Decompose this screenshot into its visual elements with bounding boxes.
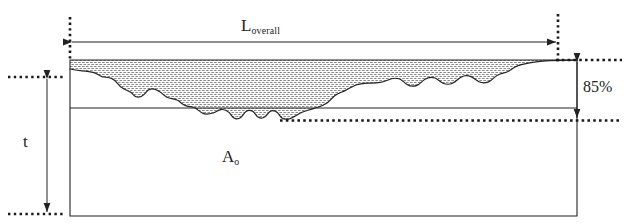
dotted-guide-lines (8, 14, 622, 214)
overall-length-label: Loverall (241, 17, 280, 34)
core-area-label-sub: o (234, 156, 239, 167)
overall-length-label-sub: overall (251, 25, 280, 36)
overall-length-label-base: L (241, 16, 251, 35)
core-area-label: Ao (222, 148, 239, 165)
percentage-label: 85% (583, 79, 612, 95)
thickness-label-base: t (23, 132, 28, 151)
peak-material-hatch-region (70, 60, 577, 119)
thickness-label: t (23, 133, 28, 150)
core-area-label-base: A (222, 147, 234, 166)
roughness-profile-figure (0, 0, 632, 224)
